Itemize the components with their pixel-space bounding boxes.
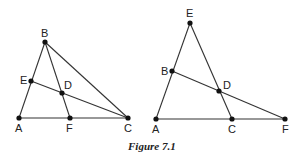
point-A [153,116,158,121]
point-B [42,39,47,44]
label-D: D [64,79,72,91]
label-F: F [66,122,73,134]
label-E: E [20,74,27,86]
point-B [169,68,174,73]
point-E [187,20,192,25]
point-D [216,88,221,93]
point-F [67,115,72,120]
label-F: F [282,123,289,135]
point-E [28,78,33,83]
label-C: C [228,123,236,135]
point-C [229,116,234,121]
point-C [125,115,130,120]
label-D: D [223,79,231,91]
label-B: B [161,65,168,77]
segment-EC [190,23,232,119]
label-A: A [152,123,160,135]
point-D [59,90,64,95]
label-A: A [15,122,23,134]
label-E: E [186,7,193,19]
geometry-figure: ABCDEF ABCDEF Figure 7.1 [0,0,303,156]
label-C: C [124,122,132,134]
point-F [282,116,287,121]
left-triangle-diagram: ABCDEF [15,27,132,134]
right-triangle-diagram: ABCDEF [152,7,289,135]
label-B: B [41,27,48,39]
segment-EC [31,81,128,118]
point-A [16,115,21,120]
figure-caption: Figure 7.1 [127,140,176,152]
